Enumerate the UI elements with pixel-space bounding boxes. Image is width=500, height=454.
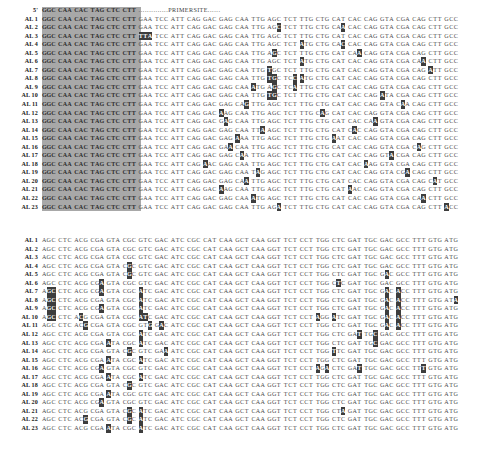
- codon: CTT: [122, 194, 138, 203]
- base: G: [260, 32, 265, 41]
- base: G: [437, 236, 442, 245]
- base: G: [325, 74, 330, 83]
- base: T: [437, 23, 442, 32]
- base: C: [67, 304, 72, 313]
- base: C: [405, 390, 410, 399]
- codon: TCT: [283, 390, 299, 399]
- codon: CTC: [58, 339, 74, 348]
- codon: TGG: [316, 347, 332, 356]
- codon: CTG: [316, 185, 332, 194]
- base: T: [309, 415, 314, 424]
- base: A: [260, 304, 265, 313]
- codon: TGG: [316, 415, 332, 424]
- codon: GTG: [139, 321, 155, 330]
- base: G: [83, 245, 88, 254]
- base: C: [116, 49, 121, 58]
- base: T: [277, 373, 282, 382]
- base: C: [180, 253, 185, 262]
- base: A: [389, 117, 394, 126]
- base: C: [180, 245, 185, 254]
- base: A: [405, 134, 410, 143]
- codon: CAA: [58, 194, 74, 203]
- codon: CCT: [300, 398, 316, 407]
- base: T: [180, 23, 185, 32]
- codon: CGA: [396, 15, 412, 24]
- codon: TGC: [364, 373, 380, 382]
- base: G: [99, 91, 104, 100]
- codon: CGC: [122, 356, 138, 365]
- codon: GTC: [139, 279, 155, 288]
- codon: TTT: [412, 373, 428, 382]
- codon: CAG: [187, 168, 203, 177]
- base: C: [148, 296, 153, 305]
- base: C: [132, 347, 137, 356]
- alignment-row: AL 19AGCCTCACGCGAATACGCGTCGACATCCGCCATCA…: [0, 390, 500, 399]
- base: G: [325, 279, 330, 288]
- codon: CTC: [58, 262, 74, 271]
- alignment-row: AL 20AGCCTCACGCGAGTACGCGTCGACATCCGCCATCA…: [0, 398, 500, 407]
- codon: ATC: [139, 287, 155, 296]
- codon: TTG: [251, 57, 267, 66]
- codon: GCC: [396, 330, 412, 339]
- base: G: [196, 49, 201, 58]
- base: C: [148, 415, 153, 424]
- base: A: [260, 270, 265, 279]
- base: G: [421, 126, 426, 135]
- base: G: [309, 160, 314, 169]
- codon: CTC: [106, 185, 122, 194]
- codon: CTT: [122, 126, 138, 135]
- base: T: [293, 160, 298, 169]
- base: A: [67, 6, 72, 15]
- codon: CGA: [90, 313, 106, 322]
- codon: GGC: [42, 143, 58, 152]
- base: C: [164, 185, 169, 194]
- sequence-label: AL 19: [0, 390, 42, 399]
- codon: CAA: [251, 262, 267, 271]
- codon: CAA: [364, 117, 380, 126]
- codon: GAA: [139, 100, 155, 109]
- alignment-row: AL 22AGCCTCACGCGAGTACGCATCGACATCCGCCATCA…: [0, 415, 500, 424]
- base: T: [212, 313, 217, 322]
- base: A: [116, 236, 121, 245]
- codon: CGC: [187, 270, 203, 279]
- codon: CTT: [428, 32, 444, 41]
- base: C: [341, 347, 346, 356]
- base: C: [116, 143, 121, 152]
- codon: GTC: [139, 253, 155, 262]
- base: C: [212, 40, 217, 49]
- codon: ATT: [171, 23, 187, 32]
- codon: GAA: [139, 185, 155, 194]
- base: C: [389, 287, 394, 296]
- base: C: [164, 203, 169, 212]
- base: G: [260, 203, 265, 212]
- base: T: [437, 185, 442, 194]
- base: C: [51, 270, 56, 279]
- base: C: [277, 177, 282, 186]
- codon: GAT: [348, 270, 364, 279]
- sequence-label: AL 3: [0, 32, 42, 41]
- codon: CAA: [412, 57, 428, 66]
- codon: CAC: [348, 134, 364, 143]
- codon: AGC: [42, 356, 58, 365]
- codon: TGG: [316, 245, 332, 254]
- codon: GCT: [235, 373, 251, 382]
- sequence: GGCCAACACTAGCTCCTTGAATCCATTCAGGACGAGCAAT…: [42, 74, 460, 83]
- codon: GAC: [155, 262, 171, 271]
- base: T: [244, 296, 249, 305]
- base: C: [212, 32, 217, 41]
- codon: CTC: [332, 398, 348, 407]
- codon: CTT: [428, 23, 444, 32]
- base: T: [309, 304, 314, 313]
- base: C: [148, 330, 153, 339]
- codon: GAT: [348, 321, 364, 330]
- codon: TGC: [364, 304, 380, 313]
- base: C: [116, 134, 121, 143]
- base: C: [373, 253, 378, 262]
- base: G: [437, 373, 442, 382]
- base: G: [325, 143, 330, 152]
- base: C: [116, 194, 121, 203]
- base: G: [437, 245, 442, 254]
- codon: GTA: [106, 304, 122, 313]
- base: C: [116, 117, 121, 126]
- codon: CGA: [396, 32, 412, 41]
